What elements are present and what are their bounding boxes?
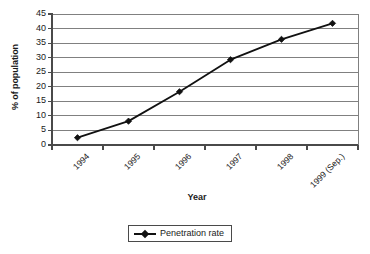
legend-item-label: Penetration rate (160, 228, 224, 239)
x-tick-label: 1996 (173, 152, 193, 172)
x-axis-title: Year (52, 192, 342, 202)
x-tick-label: 1995 (122, 152, 142, 172)
line-chart: % of population 051015202530354045 19941… (0, 0, 370, 254)
x-tick-label: 1998 (275, 152, 295, 172)
x-axis-tick-labels: 199419951996199719981999 (Sep.) (0, 0, 370, 254)
x-tick-label: 1994 (71, 152, 91, 172)
legend-marker-icon (134, 229, 156, 238)
x-tick-label: 1997 (224, 152, 244, 172)
x-tick-label: 1999 (Sep.) (308, 152, 346, 190)
chart-legend: Penetration rate (128, 225, 232, 242)
